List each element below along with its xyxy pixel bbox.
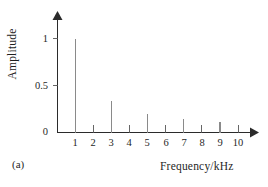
y-axis-title: Amplitude [6, 18, 18, 90]
x-tick-label-1: 1 [72, 138, 77, 149]
stem-group [75, 39, 220, 133]
y-tick-label-0-5: 0.5 [18, 81, 48, 92]
y-tick-marks [53, 39, 58, 86]
figure-panel: 1 2 3 4 5 6 7 8 9 10 0 0.5 1 Amplitude F… [0, 0, 268, 187]
x-tick-label-9: 9 [217, 138, 222, 149]
panel-caption: (a) [12, 158, 24, 170]
x-tick-label-8: 8 [199, 138, 204, 149]
x-tick-label-2: 2 [90, 138, 95, 149]
x-axis-title: Frequency/kHz [160, 160, 234, 172]
x-tick-label-4: 4 [126, 138, 131, 149]
y-tick-label-0: 0 [18, 127, 48, 138]
x-tick-label-5: 5 [144, 138, 149, 149]
x-axis-arrow-icon [250, 128, 259, 138]
spectrum-plot [0, 0, 268, 187]
x-tick-label-3: 3 [108, 138, 113, 149]
x-tick-label-10: 10 [233, 138, 244, 149]
y-tick-label-1: 1 [18, 34, 48, 45]
x-tick-marks [75, 125, 238, 133]
y-axis-arrow-icon [53, 11, 63, 20]
x-tick-label-7: 7 [181, 138, 186, 149]
x-tick-label-6: 6 [163, 138, 168, 149]
